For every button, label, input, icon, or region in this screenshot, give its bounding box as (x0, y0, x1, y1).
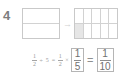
answer-box-one-fifth[interactable]: 1 5 (71, 48, 84, 72)
worksheet-problem-4: 4 → (0, 0, 120, 78)
model-cell (92, 23, 100, 38)
model-cell (84, 23, 92, 38)
model-column (75, 9, 83, 38)
fraction-numerator: 1 (59, 53, 62, 59)
fraction-denominator: 2 (33, 61, 36, 67)
fraction-numerator: 1 (33, 53, 36, 59)
fraction-one-fifth: 1 5 (74, 49, 81, 72)
fraction-numerator: 1 (75, 49, 81, 59)
model-cell (101, 23, 109, 38)
fraction-one-half-first: 1 2 (32, 53, 37, 67)
model-column (91, 9, 100, 38)
model-cell (23, 23, 59, 38)
model-cell (92, 9, 100, 23)
model-column (83, 9, 92, 38)
fraction-denominator: 2 (59, 61, 62, 67)
fraction-model-row: → (22, 8, 118, 42)
model-cell-shaded (75, 23, 83, 38)
model-cell (109, 23, 117, 38)
arrow-right-icon: → (62, 20, 73, 29)
equals-operator-second: = (86, 54, 94, 66)
tenths-grid-model (74, 8, 118, 39)
model-column (108, 9, 117, 38)
divisor-value: 5 (45, 57, 49, 63)
half-rectangle-model (22, 8, 60, 39)
fraction-denominator: 5 (75, 62, 81, 72)
multiplication-operator: × (65, 57, 69, 63)
equation: 1 2 ÷ 5 = 1 2 × 1 5 = 1 10 (32, 46, 114, 74)
model-cell (84, 9, 92, 23)
equals-operator-first: = (51, 57, 55, 63)
answer-box-one-tenth[interactable]: 1 10 (97, 48, 114, 72)
fraction-one-tenth: 1 10 (100, 49, 111, 72)
model-cell (109, 9, 117, 23)
model-cell (23, 9, 59, 23)
problem-number: 4 (3, 9, 10, 22)
model-cell (75, 9, 83, 23)
fraction-one-half-second: 1 2 (58, 53, 63, 67)
fraction-numerator: 1 (102, 49, 108, 59)
division-operator: ÷ (39, 57, 43, 63)
fraction-denominator: 10 (100, 62, 111, 72)
model-column (100, 9, 109, 38)
model-cell (101, 9, 109, 23)
